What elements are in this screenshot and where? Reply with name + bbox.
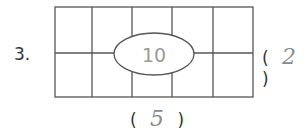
open-paren: ( <box>262 48 269 68</box>
columns-answer: 5 <box>150 106 164 131</box>
rows-answer: 2 <box>282 44 296 69</box>
columns-answer-field[interactable]: ( 5 ) <box>130 106 184 131</box>
center-label: 10 <box>142 44 166 66</box>
rows-answer-field[interactable]: ( 2 ) <box>262 44 308 89</box>
close-paren: ) <box>177 110 184 130</box>
close-paren: ) <box>262 69 269 89</box>
open-paren: ( <box>130 110 137 130</box>
